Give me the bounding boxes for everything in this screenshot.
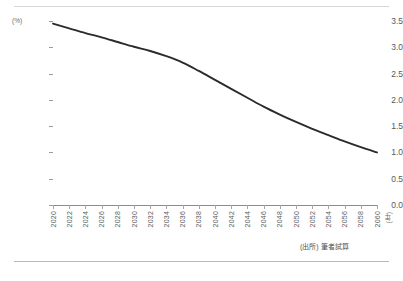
series-line-path <box>53 24 377 153</box>
figure: (%) 0.00.51.01.52.02.53.03.5 20202022202… <box>0 0 403 281</box>
series-line-layer <box>0 0 403 281</box>
source-note: (出所) 筆者試算 <box>300 241 349 251</box>
